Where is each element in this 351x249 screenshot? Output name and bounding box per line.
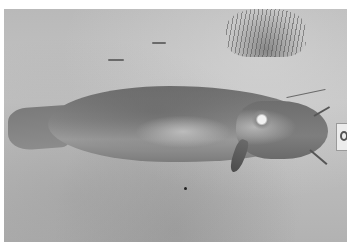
twig — [152, 42, 166, 44]
twig — [286, 89, 325, 98]
scale-card — [336, 123, 347, 151]
photograph — [4, 9, 347, 242]
scale-mark-icon — [340, 131, 347, 141]
twig — [108, 59, 124, 61]
pebble — [184, 187, 187, 190]
grass-tuft — [226, 9, 306, 57]
fish-head — [236, 101, 328, 159]
fish-barbel — [309, 149, 327, 165]
